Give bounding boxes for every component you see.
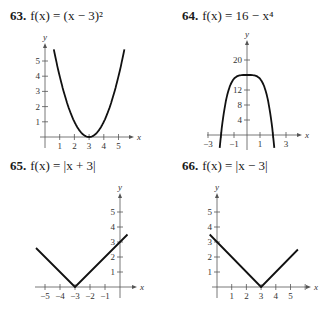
x-tick-label: 4 (102, 141, 107, 151)
x-tick-label: 5 (116, 141, 121, 151)
x-axis-arrow-icon (297, 133, 302, 137)
x-tick-label: −4 (55, 291, 65, 301)
plot-63: xy1234512345 (36, 32, 142, 151)
y-tick-label: 3 (208, 237, 213, 247)
x-tick-label: 1 (57, 141, 62, 151)
y-tick-label: 4 (111, 222, 116, 232)
plots-canvas: xy1234512345xy−3−113481220xy−5−4−3−2−112… (0, 0, 322, 317)
y-tick-label: 1 (111, 267, 116, 277)
x-tick-label: 3 (87, 141, 92, 151)
function-curve (54, 49, 125, 137)
x-tick-label: 3 (284, 139, 289, 149)
y-axis-arrow-icon (43, 43, 47, 48)
x-tick-label: 1 (258, 139, 263, 149)
x-tick-label: 2 (72, 141, 77, 151)
y-tick-label: 3 (111, 237, 116, 247)
y-tick-label: 5 (208, 207, 213, 217)
y-tick-label: 20 (233, 55, 243, 65)
y-tick-label: 5 (36, 56, 41, 66)
y-axis-label: y (117, 182, 122, 192)
x-tick-label: −3 (203, 139, 213, 149)
x-tick-label: −1 (100, 291, 110, 301)
y-tick-label: 2 (208, 252, 213, 262)
x-tick-label: −1 (229, 139, 239, 149)
x-tick-label: 5 (288, 291, 293, 301)
y-tick-label: 1 (208, 267, 213, 277)
x-axis-label: x (313, 282, 318, 292)
y-tick-label: 4 (208, 222, 213, 232)
y-axis-label: y (42, 32, 47, 42)
x-axis-arrow-icon (132, 285, 137, 289)
x-axis-arrow-icon (129, 135, 134, 139)
x-axis-arrow-icon (306, 285, 311, 289)
y-axis-label: y (214, 182, 219, 192)
y-tick-label: 2 (36, 102, 41, 112)
x-tick-label: −2 (85, 291, 95, 301)
x-tick-label: 4 (274, 291, 279, 301)
plot-64: xy−3−113481220 (203, 29, 309, 150)
x-tick-label: −3 (70, 291, 80, 301)
x-tick-label: 2 (244, 291, 249, 301)
x-axis-label: x (139, 282, 144, 292)
y-tick-label: 4 (36, 71, 41, 81)
y-tick-label: 5 (111, 207, 116, 217)
y-tick-label: 2 (111, 252, 116, 262)
x-tick-label: 1 (229, 291, 234, 301)
plot-65: xy−5−4−3−2−112345 (35, 182, 144, 301)
x-axis-label: x (136, 132, 141, 142)
y-axis-arrow-icon (118, 193, 122, 198)
y-tick-label: 4 (238, 115, 243, 125)
function-curve (210, 235, 298, 288)
plot-66: xy1234512345 (208, 182, 319, 301)
y-tick-label: 12 (233, 85, 242, 95)
y-axis-arrow-icon (245, 40, 249, 45)
x-tick-label: 3 (259, 291, 264, 301)
y-tick-label: 3 (36, 86, 41, 96)
y-axis-arrow-icon (215, 193, 219, 198)
x-tick-label: −5 (40, 291, 50, 301)
y-tick-label: 8 (238, 100, 243, 110)
y-tick-label: 1 (36, 117, 41, 127)
x-axis-label: x (304, 130, 309, 140)
y-axis-label: y (244, 29, 249, 39)
